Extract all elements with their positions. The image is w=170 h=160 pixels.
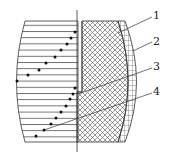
diagram-canvas: 1 2 3 4 (0, 0, 170, 160)
label-3: 3 (153, 60, 160, 73)
left-hatched-region (17, 21, 79, 142)
center-crosshatch-region (77, 21, 128, 142)
label-1: 1 (153, 9, 160, 22)
label-2: 2 (153, 35, 160, 48)
label-4: 4 (153, 85, 160, 98)
